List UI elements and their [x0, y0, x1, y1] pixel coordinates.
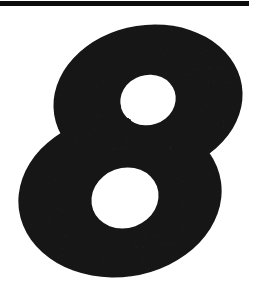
numeral-glyph-svg — [0, 0, 265, 287]
page-number-numeral: 8 — [0, 0, 265, 287]
page-canvas: 8 — [0, 0, 265, 287]
